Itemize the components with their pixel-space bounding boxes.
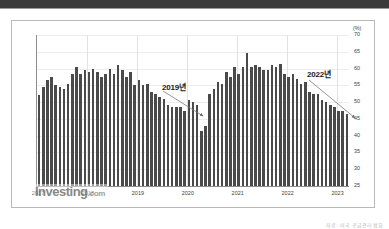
bar	[246, 53, 249, 186]
bar	[341, 111, 344, 187]
y-axis-tick-65: 65	[354, 49, 360, 54]
bar-series	[37, 35, 349, 186]
y-axis-tick-30: 30	[354, 166, 360, 171]
bar	[54, 85, 57, 186]
bar	[59, 87, 62, 186]
bar	[175, 107, 178, 186]
bar	[317, 94, 320, 186]
bar	[158, 97, 161, 186]
bar	[125, 77, 128, 186]
y-axis-tick-45: 45	[354, 116, 360, 121]
bar	[50, 77, 53, 186]
y-axis-tick-70: 70	[354, 32, 360, 37]
bar	[217, 82, 220, 186]
bar	[84, 70, 87, 186]
x-axis-tick-2019: 2019	[132, 191, 144, 196]
y-axis-tick-25: 25	[354, 183, 360, 188]
bar	[200, 131, 203, 186]
bar	[88, 72, 91, 186]
bar	[233, 67, 236, 186]
bar	[346, 114, 349, 186]
bar	[329, 105, 332, 186]
bar	[92, 69, 95, 186]
bar	[179, 107, 182, 186]
bar	[333, 107, 336, 186]
bar	[96, 72, 99, 186]
bar	[100, 77, 103, 186]
bar	[229, 77, 232, 186]
bar	[113, 74, 116, 186]
bar	[292, 74, 295, 186]
bar	[321, 100, 324, 186]
x-axis-tick-2022: 2022	[281, 191, 293, 196]
bar	[237, 74, 240, 186]
bar	[188, 100, 191, 186]
y-axis: (%) 25303540455055606570	[350, 21, 376, 201]
x-axis-tick-2021: 2021	[232, 191, 244, 196]
x-axis-tick-2023: 2023	[331, 191, 343, 196]
watermark-brand: Investing	[35, 184, 88, 199]
bar	[271, 65, 274, 186]
bar	[146, 84, 149, 186]
bar	[79, 74, 82, 186]
bar	[121, 70, 124, 186]
bar	[171, 107, 174, 186]
bar	[196, 105, 199, 186]
bar	[208, 94, 211, 186]
bar	[325, 102, 328, 186]
source-caption: 자료: 미국 공급관리협회	[326, 221, 383, 228]
bar	[300, 84, 303, 186]
x-axis-tick-2020: 2020	[182, 191, 194, 196]
watermark-suffix: .com	[88, 189, 105, 198]
bar	[63, 89, 66, 186]
bar	[42, 87, 45, 186]
plot-area	[36, 35, 349, 187]
bar	[262, 70, 265, 186]
bar	[287, 77, 290, 186]
bar	[109, 69, 112, 186]
bar	[163, 99, 166, 186]
bar	[117, 65, 120, 186]
bar	[204, 126, 207, 186]
bar	[221, 84, 224, 186]
annotation-label-2022: 2022년	[307, 68, 331, 79]
bar	[250, 67, 253, 186]
bar	[304, 82, 307, 186]
y-axis-tick-40: 40	[354, 133, 360, 138]
bar	[192, 102, 195, 186]
bar	[308, 92, 311, 186]
chart-figure-card: (%) 25303540455055606570 201720182019202…	[11, 20, 375, 208]
bar	[167, 105, 170, 186]
y-axis-tick-50: 50	[354, 99, 360, 104]
bar	[150, 92, 153, 186]
bar	[225, 72, 228, 186]
bar	[46, 80, 49, 186]
bar	[242, 67, 245, 186]
top-banner-strip	[0, 0, 389, 9]
bar	[337, 111, 340, 187]
bar	[138, 80, 141, 186]
bar	[133, 85, 136, 186]
bar	[75, 67, 78, 186]
bar	[258, 67, 261, 186]
bar	[267, 70, 270, 186]
bar	[38, 95, 41, 186]
investing-com-watermark: Investing.com	[33, 184, 108, 199]
bar	[279, 64, 282, 186]
bar	[71, 74, 74, 186]
bar	[142, 85, 145, 186]
y-axis-tick-55: 55	[354, 82, 360, 87]
bar	[296, 79, 299, 186]
y-axis-tick-60: 60	[354, 66, 360, 71]
bar	[183, 111, 186, 187]
bar	[254, 65, 257, 186]
annotation-label-2019: 2019년	[162, 81, 186, 92]
bar	[129, 72, 132, 186]
bar	[213, 89, 216, 186]
bar	[154, 94, 157, 186]
bar	[104, 74, 107, 186]
y-axis-tick-35: 35	[354, 149, 360, 154]
bar	[67, 84, 70, 186]
bar	[275, 67, 278, 186]
bar	[312, 94, 315, 186]
